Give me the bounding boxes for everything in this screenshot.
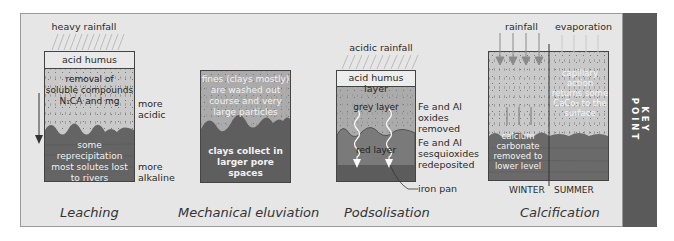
fe-al-removed-line-3: removed xyxy=(418,123,462,134)
rain-hatch-icon xyxy=(48,32,128,50)
more-acidic-line-2: acidic xyxy=(138,109,166,120)
acid-humus-layer-label: acid humus layer xyxy=(336,72,416,94)
capillary-line-1: capillary action xyxy=(550,68,610,88)
rainfall-label: rainfall xyxy=(505,21,538,32)
calcium-line-2: carbonate xyxy=(488,141,548,151)
evaporation-label: evaporation xyxy=(555,21,612,32)
key-label: KEY xyxy=(640,106,650,134)
point-label: POINT xyxy=(630,98,640,143)
calcium-line-3: removed to xyxy=(488,151,548,161)
fe-al-removed-line-1: Fe and Al xyxy=(418,101,462,112)
more-alkaline-line-1: more xyxy=(138,161,175,172)
down-arrow-icon xyxy=(34,93,44,145)
more-alkaline-line-2: alkaline xyxy=(138,172,175,183)
eluviation-lower-line-2: larger pore xyxy=(200,157,291,168)
capillary-line-2: returns some xyxy=(550,88,610,98)
evaporation-arrows-icon xyxy=(556,33,606,53)
more-acidic-line-1: more xyxy=(138,98,166,109)
eluviation-lower-line-1: clays collect in xyxy=(200,146,291,157)
calcium-line-4: lower level xyxy=(488,161,548,171)
leaching-mid-line-1: removal of xyxy=(44,74,135,85)
capillary-line-4: surface xyxy=(550,108,610,118)
pointer-line xyxy=(390,165,420,195)
fe-al-redeposited-line-1: Fe and Al xyxy=(418,137,479,148)
iron-pan-label: iron pan xyxy=(418,183,457,194)
fe-al-redeposited-line-3: redeposited xyxy=(418,159,479,170)
upward-arrows-icon xyxy=(505,105,535,125)
leaching-title: Leaching xyxy=(60,205,119,220)
winter-label: WINTER xyxy=(509,185,545,196)
leaching-low-line-3: most solutes lost xyxy=(44,162,135,173)
key-point-band: KEY POINT xyxy=(623,13,657,227)
leaching-mid-line-2: soluble compounds xyxy=(44,85,135,96)
capillary-line-3: CaCo₃ to the xyxy=(550,98,610,108)
acidic-rainfall-label: acidic rainfall xyxy=(336,42,426,53)
grey-layer-label: grey layer xyxy=(336,102,416,113)
summer-label: SUMMER xyxy=(554,185,594,196)
eluviation-title: Mechanical eluviation xyxy=(178,205,319,220)
rain-arrows-icon xyxy=(495,33,545,66)
eluviation-upper-line-3: course and very xyxy=(200,96,291,107)
leaching-low-line-2: reprecipitation xyxy=(44,151,135,162)
leaching-mid-line-3: N₁CA and mg xyxy=(44,96,135,107)
podsolisation-title: Podsolisation xyxy=(344,205,430,220)
heavy-rainfall-label: heavy rainfall xyxy=(44,21,124,32)
acid-humus-label: acid humus xyxy=(44,54,135,65)
leaching-low-line-4: to rivers xyxy=(44,173,135,184)
eluviation-upper-line-2: are washed out xyxy=(200,85,291,96)
rain-hatch-icon xyxy=(340,54,424,69)
leaching-low-line-1: some xyxy=(44,140,135,151)
calcification-title: Calcification xyxy=(520,205,600,220)
eluviation-upper-line-1: fines (clays mostly) xyxy=(200,74,291,85)
fe-al-redeposited-line-2: sesquioxides xyxy=(418,148,479,159)
eluviation-upper-line-4: large particles xyxy=(200,107,291,118)
red-layer-label: red layer xyxy=(336,145,416,156)
calcium-line-1: calcium xyxy=(488,131,548,141)
fe-al-removed-line-2: oxides xyxy=(418,112,462,123)
eluviation-lower-line-3: spaces xyxy=(200,168,291,179)
